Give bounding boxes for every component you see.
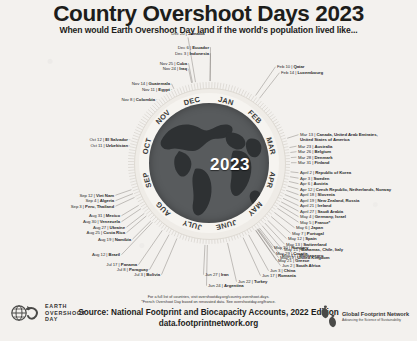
label-date: Jun 27 | (205, 272, 221, 277)
country-overshoot-label: Feb 10 | Qatar (277, 64, 304, 69)
label-date: Nov 25 | (160, 61, 177, 66)
label-country: Finland (314, 160, 329, 165)
label-date: April 27 | (300, 209, 318, 214)
label-country: Jamaica (188, 31, 205, 36)
label-date: Dec 3 | (175, 51, 189, 56)
label-date: Aug 31 | (89, 213, 106, 218)
label-country: Republic of Korea (315, 170, 351, 175)
country-overshoot-label: Aug 25 | Costa Rica (0, 230, 125, 235)
page-title: Country Overshoot Days 2023 (0, 1, 417, 27)
country-overshoot-label: May 29 | Croatia (276, 251, 308, 256)
label-date: Sep 3 | (71, 204, 85, 209)
label-country: Spain (305, 236, 316, 241)
label-date: Dec 20 | (171, 31, 188, 36)
label-date: Aug 19 | (98, 237, 115, 242)
country-overshoot-label: Mar 31 | Finland (298, 160, 329, 165)
label-date: Jul 3 | (134, 272, 146, 277)
label-country: China (284, 268, 296, 273)
label-country: Ireland (318, 203, 332, 208)
country-overshoot-label: Oct 11 | Uzbekistan (0, 143, 128, 148)
label-date: Mar 28 | (298, 155, 314, 160)
global-footprint-network-logo: Global Footprint Network Advancing the S… (320, 304, 409, 330)
country-overshoot-label: Dec 20 | Jamaica (148, 31, 228, 36)
label-date: Aug 12 | (92, 252, 109, 257)
label-date: Aug 30 | (83, 219, 100, 224)
label-country: Indonesia (189, 51, 209, 56)
country-overshoot-label: Jun 3 | China (270, 268, 295, 273)
label-country: Ukraine (110, 225, 125, 230)
label-date: April 18 | (300, 192, 318, 197)
label-date: Jun 17 | (262, 273, 278, 278)
label-date: Feb 10 | (277, 64, 293, 69)
globe-arrow-icon (10, 303, 40, 323)
label-country: Brazil (109, 252, 120, 257)
label-country: Turkey (254, 279, 267, 284)
country-overshoot-label: Jun 22 | Turkey (238, 279, 267, 284)
label-country: Hungary (291, 245, 308, 250)
label-date: Oct 12 | (89, 137, 105, 142)
country-overshoot-label: Jun 17 | Romania (262, 273, 296, 278)
label-country: France* (315, 220, 330, 225)
label-date: Nov 11 | (142, 87, 158, 92)
label-date: Mar 23 | (298, 144, 314, 149)
label-date: Jun 3 | (270, 268, 284, 273)
label-country: Ecuador (192, 45, 209, 50)
country-overshoot-label: Dec 3 | Indonesia (0, 51, 209, 56)
label-date: Mar 13 | (300, 132, 316, 137)
country-overshoot-label: Jun 2 | South Africa (282, 263, 320, 268)
label-date: May 5 | (300, 220, 315, 225)
label-country: Peru, Thailand (85, 204, 114, 209)
label-date: April 2 | (300, 170, 315, 175)
country-overshoot-label: Aug 31 | Mexico (0, 213, 120, 218)
label-country: Uzbekistan (106, 143, 128, 148)
label-country: Denmark (314, 155, 332, 160)
label-date: Sep 4 | (85, 198, 99, 203)
earth-overshoot-day-logo: EARTH OVERSHOOT DAY (10, 303, 86, 323)
label-country: Costa Rica (103, 230, 125, 235)
country-overshoot-label: Aug 12 | Brazil (0, 252, 120, 257)
center-year: 2023 (149, 155, 269, 175)
country-overshoot-label: Jun 27 | Iran (205, 272, 229, 277)
gfn-name: Global Footprint Network (342, 311, 409, 318)
label-country: El Salvador (105, 137, 128, 142)
label-country: Venezuela (100, 219, 120, 224)
label-country: Belgium (314, 149, 331, 154)
country-overshoot-label: Mar 13 | Canada, United Arab Emirates,Un… (300, 132, 378, 143)
label-country: Iran (221, 272, 229, 277)
label-date: Nov 8 | (121, 97, 135, 102)
label-country: Austria (313, 181, 327, 186)
label-country: Iraq (179, 66, 187, 71)
eod-logo-line-3: DAY (45, 316, 86, 322)
label-date: May 29 | (276, 251, 293, 256)
label-country: Japan (311, 225, 323, 230)
label-country: Croatia (293, 251, 307, 256)
label-date: Dec 6 | (178, 45, 192, 50)
country-overshoot-label: Nov 8 | Colombia (0, 97, 155, 102)
country-overshoot-label: Aug 19 | Namibia (0, 237, 131, 242)
label-country: Luxembourg (297, 70, 323, 75)
label-country: Sweden (313, 176, 329, 181)
label-country: Canada, United Arab Emirates, (316, 132, 377, 137)
label-country: Qatar (293, 64, 304, 69)
label-date: Nov 24 | (163, 66, 180, 71)
label-date: April 19 | (300, 198, 318, 203)
country-overshoot-label: May 30 | Hungary (274, 245, 308, 250)
eod-logo-text: EARTH OVERSHOOT DAY (45, 303, 86, 322)
label-date: Mar 31 | (298, 160, 314, 165)
label-country: Portugal (307, 231, 324, 236)
country-overshoot-label: Jul 3 | Bolivia (0, 272, 160, 277)
label-date: May 6 | (296, 225, 311, 230)
label-country: Germany, Israel (315, 214, 346, 219)
label-date: May 7 | (292, 231, 307, 236)
label-date: Nov 14 | (132, 81, 149, 86)
gfn-tagline: Advancing the Science of Sustainability (342, 318, 409, 322)
label-country: Romania (278, 273, 296, 278)
label-country: Viet Nam (96, 193, 114, 198)
label-country: Cuba (176, 61, 187, 66)
source-text: Source: National Footprint and Biocapaci… (78, 308, 338, 317)
label-date: Apr 6 | (300, 181, 313, 186)
label-country: Slovenia (318, 192, 335, 197)
country-overshoot-label: Nov 24 | Iraq (0, 66, 187, 71)
label-country-line-2: United States of America (300, 137, 378, 142)
label-country: Saudi Arabia (318, 209, 344, 214)
